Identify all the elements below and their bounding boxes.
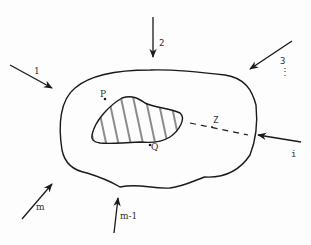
- load-label-m: m: [36, 203, 45, 212]
- load-arrow-i: [258, 135, 301, 142]
- diagram-canvas: P Q Z 1 2 3 ⋮ i m-1 m: [0, 0, 311, 245]
- load-label-m-1: m-1: [120, 212, 137, 221]
- load-arrow-m-1: [114, 198, 118, 233]
- load-arrow-3: [250, 41, 292, 69]
- load-label-ellipsis: ⋮: [280, 67, 290, 77]
- point-p-label: P: [100, 90, 106, 99]
- load-arrow-1: [10, 65, 52, 88]
- diagram-drawing: [0, 0, 311, 245]
- load-label-i: i: [291, 150, 296, 159]
- distance-label-z: Z: [213, 116, 218, 125]
- load-label-1: 1: [34, 67, 40, 76]
- load-label-2: 2: [159, 39, 164, 48]
- hatched-inclusion: [92, 97, 183, 144]
- point-q-label: Q: [151, 143, 158, 152]
- load-label-3: 3: [280, 57, 285, 66]
- distance-line-z: [190, 123, 248, 135]
